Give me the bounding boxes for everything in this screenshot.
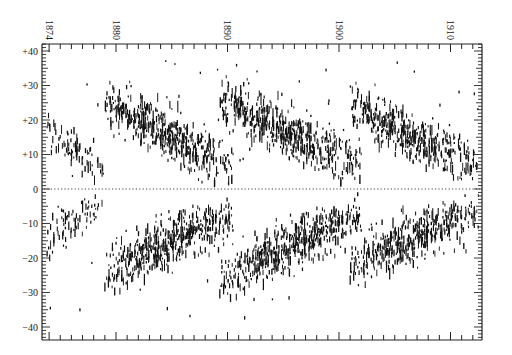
y-tick-label: +30 [22,80,38,91]
x-tick-label: 1880 [111,20,122,40]
y-tick-label: −20 [22,253,38,264]
x-axis-top: 18741880189019001910 [44,20,473,340]
y-tick-label: −30 [22,287,38,298]
x-tick-label: 1900 [334,20,345,40]
x-tick-label: 1910 [445,20,456,40]
y-tick-label: −10 [22,218,38,229]
y-tick-label: +20 [22,115,38,126]
plot-frame [42,44,482,340]
y-axis-left: +40+30+20+100−10−20−30−40 [22,44,482,337]
butterfly-diagram: 18741880189019001910 +40+30+20+100−10−20… [0,0,512,355]
y-tick-label: −40 [22,322,38,333]
y-tick-label: +10 [22,149,38,160]
y-tick-label: 0 [33,184,38,195]
x-tick-label: 1890 [222,20,233,40]
x-tick-label: 1874 [44,20,55,40]
y-tick-label: +40 [22,46,38,57]
sunspot-marks [47,60,478,319]
